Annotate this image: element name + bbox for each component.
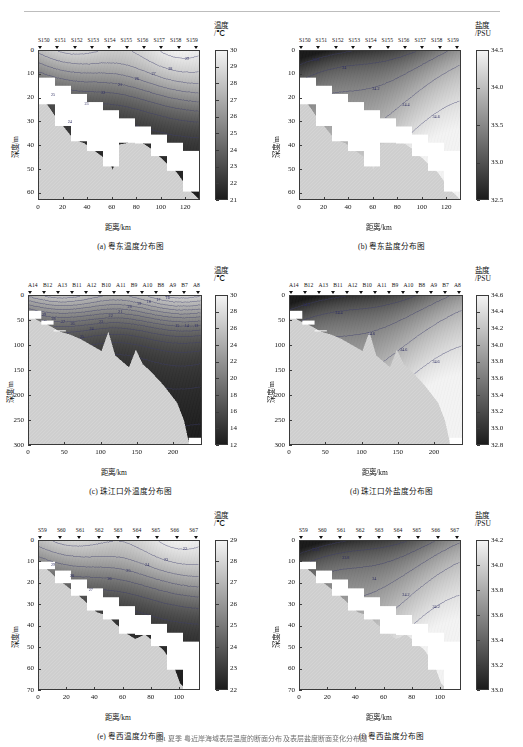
colorbar-tick-mark: [477, 615, 480, 616]
colorbar-title-d: 盐度 /PSU: [475, 267, 491, 284]
colorbar-tick-b-33.5: 33.5: [491, 121, 503, 129]
contour-label-c-17: 17: [156, 297, 160, 302]
station-label-a12: A12: [87, 282, 97, 288]
station-marker-s152-icon: [73, 46, 77, 49]
y-tick-mark: [28, 445, 31, 446]
contour-label-c-14: 14: [185, 323, 189, 328]
station-label-b9: B9: [392, 282, 399, 288]
x-tick-mark: [362, 442, 363, 445]
contour-label-c-25: 25: [80, 334, 84, 339]
colorbar-tick-mark: [477, 295, 480, 296]
contour-label-b-34.2: 34.2: [372, 86, 379, 91]
station-marker-b7-icon: [182, 291, 186, 294]
colorbar-tick-mark: [477, 395, 480, 396]
y-tick-label-a-10: 10: [8, 69, 34, 77]
x-tick-label-e-0: 0: [26, 693, 50, 701]
x-tick-label-c-50: 50: [52, 448, 76, 456]
y-tick-mark: [38, 561, 41, 562]
x-tick-label-a-60: 60: [100, 203, 124, 211]
station-marker-s66-icon: [436, 536, 440, 539]
x-tick-label-f-40: 40: [343, 693, 367, 701]
x-tick-mark: [412, 687, 413, 690]
panel-caption-a: (a) 粤东温度分布图: [0, 240, 261, 251]
colorbar-tick-mark: [216, 167, 219, 168]
colorbar-tick-mark: [216, 345, 219, 346]
station-label-s156: S156: [137, 37, 149, 43]
contour-label-e-29: 29: [51, 562, 55, 567]
colorbar-tick-mark: [216, 150, 219, 151]
station-marker-s152-icon: [334, 46, 338, 49]
station-marker-s154-icon: [107, 46, 111, 49]
y-tick-mark: [289, 295, 292, 296]
y-tick-mark: [289, 370, 292, 371]
colorbar-tick-f-33: 33.0: [491, 686, 503, 694]
x-tick-mark: [151, 687, 152, 690]
y-tick-mark: [299, 561, 302, 562]
colorbar-tick-mark: [477, 362, 480, 363]
station-marker-b11-icon: [331, 291, 335, 294]
y-tick-mark: [299, 540, 302, 541]
station-label-s155: S155: [120, 37, 132, 43]
x-tick-label-e-60: 60: [111, 693, 135, 701]
panel-d-zhujiangkou-salinity: 盐度 /PSU A14B12A13B11A12B10A11B9A10B8A9B7…: [261, 263, 522, 510]
colorbar-tick-c-26: 26: [230, 324, 237, 332]
station-marker-s150-icon: [299, 46, 303, 49]
contour-label-a-21: 21: [118, 82, 122, 87]
page-header: [0, 0, 523, 18]
colorbar-d: [476, 295, 489, 445]
y-tick-label-a-30: 30: [8, 117, 34, 125]
x-axis-label-a: 距离/km: [38, 221, 198, 232]
station-tick-row-b: [299, 46, 459, 49]
x-axis-label-b: 距离/km: [299, 221, 459, 232]
y-tick-mark: [299, 669, 302, 670]
colorbar-tick-e-26: 26: [230, 600, 237, 608]
station-label-a8: A8: [193, 282, 200, 288]
station-marker-s156-icon: [142, 46, 146, 49]
station-marker-b12-icon: [303, 291, 307, 294]
station-label-a12: A12: [348, 282, 358, 288]
colorbar-tick-f-34.2: 34.2: [491, 536, 503, 544]
x-tick-label-b-100: 100: [410, 203, 434, 211]
station-label-s63: S63: [375, 527, 384, 533]
contour-label-b-33.8: 33.8: [312, 57, 319, 62]
contour-label-e-23: 23: [164, 557, 168, 562]
station-marker-a9-icon: [429, 291, 433, 294]
station-label-b8: B8: [418, 282, 425, 288]
x-tick-mark: [355, 687, 356, 690]
contour-label-c-18: 18: [147, 299, 151, 304]
station-label-row-f: S59S60S61S62S63S64S65S66S67: [299, 527, 459, 533]
x-tick-mark: [123, 687, 124, 690]
colorbar-tick-mark: [216, 117, 219, 118]
x-tick-label-d-0: 0: [277, 448, 301, 456]
station-marker-a11-icon: [112, 291, 116, 294]
x-tick-label-f-0: 0: [287, 693, 311, 701]
contour-label-c-22: 22: [109, 313, 113, 318]
y-tick-mark: [38, 74, 41, 75]
x-tick-mark: [398, 442, 399, 445]
station-label-a13: A13: [318, 282, 328, 288]
y-tick-label-f-60: 60: [269, 664, 295, 672]
figure-caption: 图1 夏季 粤近岸海域表层温度的断面分布 及表层盐度断面变化分布图: [0, 733, 523, 743]
panel-e-yuexi-temperature: 温度 /℃ S59S60S61S62S63S64S65S66S67 深度/m 距…: [0, 508, 261, 747]
station-marker-b8-icon: [154, 291, 158, 294]
contour-label-c-29: 29: [42, 312, 46, 317]
station-label-s63: S63: [114, 527, 123, 533]
x-tick-label-d-200: 200: [422, 448, 446, 456]
y-tick-label-e-60: 60: [8, 664, 34, 672]
station-marker-a13-icon: [56, 291, 60, 294]
contour-label-c-27: 27: [61, 319, 65, 324]
station-label-s66: S66: [431, 527, 440, 533]
x-tick-mark: [38, 197, 39, 200]
station-label-b12: B12: [304, 282, 313, 288]
station-label-s151: S151: [315, 37, 327, 43]
station-marker-s67-icon: [194, 536, 198, 539]
x-tick-mark: [66, 687, 67, 690]
colorbar-tick-d-33.4: 33.4: [491, 391, 503, 399]
y-tick-mark: [299, 626, 302, 627]
station-label-a13: A13: [57, 282, 67, 288]
station-marker-s67-icon: [455, 536, 459, 539]
station-marker-s158-icon: [438, 46, 442, 49]
x-tick-label-f-80: 80: [400, 693, 424, 701]
colorbar-tick-mark: [216, 445, 219, 446]
colorbar-tick-mark: [477, 312, 480, 313]
